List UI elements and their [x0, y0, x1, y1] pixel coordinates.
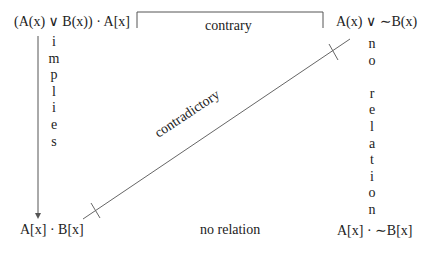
letter: i: [48, 34, 60, 51]
arrow-head-icon: [35, 213, 41, 219]
diagram-lines: [0, 0, 427, 253]
letter: t: [366, 152, 378, 169]
letter: m: [48, 51, 60, 68]
no-relation-vertical-label: n o r e l a t i o n: [366, 36, 378, 219]
letter: r: [366, 86, 378, 103]
letter: a: [366, 136, 378, 153]
letter: l: [48, 84, 60, 101]
letter: n: [366, 202, 378, 219]
letter: i: [48, 100, 60, 117]
letter: n: [366, 36, 378, 53]
implies-vertical-label: i m p l i e s: [48, 34, 60, 150]
corner-top-left: (A(x) ∨ B(x)) · A[x]: [14, 13, 130, 30]
relation-contrary: contrary: [205, 18, 252, 34]
relation-bottom-no-relation: no relation: [200, 222, 260, 238]
letter: [366, 69, 378, 86]
letter: o: [366, 53, 378, 70]
tick-mark-bottom: [91, 203, 100, 218]
corner-bottom-right: A[x] · ∼B[x]: [337, 222, 413, 239]
corner-top-right: A(x) ∨ ∼B(x): [336, 13, 417, 30]
letter: o: [366, 185, 378, 202]
letter: e: [366, 102, 378, 119]
letter: e: [48, 117, 60, 134]
letter: i: [366, 169, 378, 186]
corner-bottom-left: A[x] · B[x]: [20, 222, 84, 238]
letter: s: [48, 134, 60, 151]
letter: p: [48, 67, 60, 84]
contradictory-line: [83, 39, 350, 219]
letter: l: [366, 119, 378, 136]
